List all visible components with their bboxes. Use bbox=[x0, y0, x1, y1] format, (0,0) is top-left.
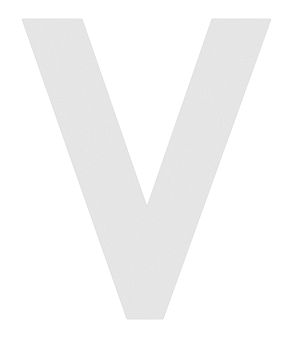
letter-v-glyph bbox=[0, 0, 293, 337]
image-canvas bbox=[0, 0, 293, 337]
paper-grain-texture bbox=[0, 0, 293, 337]
